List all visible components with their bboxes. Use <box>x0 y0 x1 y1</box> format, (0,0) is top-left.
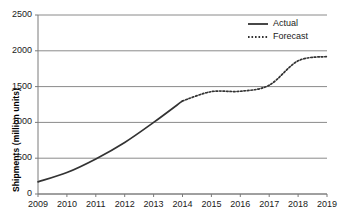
x-axis-tick-label: 2018 <box>283 199 313 209</box>
legend-swatches <box>248 24 268 37</box>
x-axis-tick-label: 2015 <box>196 199 226 209</box>
series-line-forecast <box>183 57 328 101</box>
x-axis-tick-label: 2017 <box>254 199 284 209</box>
gridlines <box>38 15 327 194</box>
y-axis-tick-label: 1000 <box>2 116 32 126</box>
legend-label-actual: Actual <box>273 18 298 28</box>
x-axis-tick-label: 2014 <box>168 199 198 209</box>
x-axis-tick-label: 2011 <box>81 199 111 209</box>
x-axis-tick-label: 2012 <box>110 199 140 209</box>
series-line-actual <box>38 101 183 182</box>
x-axis-tick-label: 2009 <box>23 199 53 209</box>
x-axis-tick-label: 2010 <box>52 199 82 209</box>
x-axis-tick-label: 2013 <box>139 199 169 209</box>
legend-label-forecast: Forecast <box>273 31 308 41</box>
y-axis-tick-label: 2500 <box>2 9 32 19</box>
x-axis-tick-label: 2019 <box>312 199 342 209</box>
y-axis-tick-label: 1500 <box>2 81 32 91</box>
y-axis-title: Shipments (million units) <box>11 88 21 192</box>
y-axis-tick-label: 2000 <box>2 45 32 55</box>
x-axis-tick-label: 2016 <box>225 199 255 209</box>
y-axis-tick-label: 500 <box>2 152 32 162</box>
y-axis-tick-label: 0 <box>2 188 32 198</box>
